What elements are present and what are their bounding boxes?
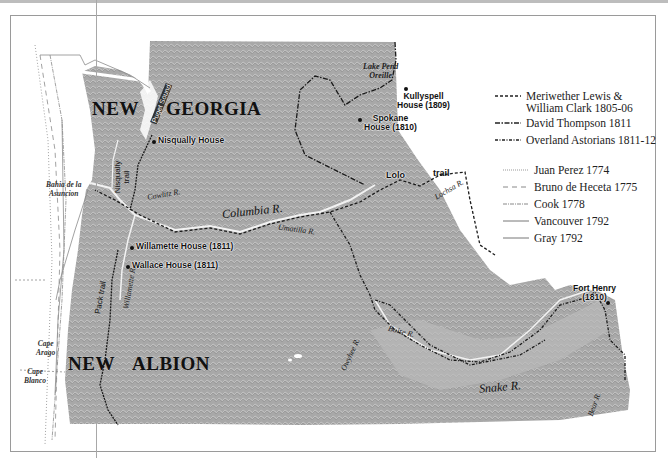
legend-label: William Clark 1805-06 — [526, 102, 633, 114]
arago-line1: Cape — [38, 339, 54, 348]
nisqually-trail-line2: trail — [122, 171, 131, 184]
long-dash-line-icon — [503, 185, 529, 189]
lake-line1: Lake Pend — [363, 62, 398, 71]
wallace-house-label: Wallace House (1811) — [132, 260, 218, 270]
legend-label: Overland Astorians 1811-12 — [526, 134, 656, 146]
dashed-line-icon — [495, 94, 521, 98]
cape-arago-label: Cape Arago — [36, 339, 55, 357]
lolo-trail-label: trail — [433, 168, 450, 178]
legend-label: Cook 1778 — [534, 198, 585, 210]
lake-line2: Oreille — [369, 71, 392, 80]
dash-dot-dot-line-icon — [495, 138, 521, 142]
legend-item-astorians: Overland Astorians 1811-12 — [495, 134, 660, 146]
graticule-line — [96, 0, 97, 458]
legend-item-cook: Cook 1778 — [495, 198, 660, 210]
region-new-georgia-2: GEORGIA — [166, 98, 261, 120]
nisqually-house-marker — [152, 140, 156, 144]
blanco-line1: Cape — [27, 367, 43, 376]
nisqually-trail-line1: Nisqually — [113, 161, 122, 193]
lake-pend-oreille-label: Lake Pend Oreille — [363, 62, 398, 80]
legend-label: David Thompson 1811 — [526, 117, 631, 129]
bahia-line2: Asuncion — [49, 189, 79, 198]
nisqually-house-label: Nisqually House — [158, 135, 224, 145]
legend-label: Juan Perez 1774 — [534, 164, 609, 176]
legend-item-gray: Gray 1792 — [495, 232, 660, 244]
dotted-line-icon — [503, 168, 529, 172]
kullyspell-line2: House (1809) — [397, 100, 450, 110]
fort-henry-label: Fort Henry (1810) — [573, 284, 616, 302]
legend-item-thompson: David Thompson 1811 — [495, 117, 660, 129]
region-new-albion-2: ALBION — [132, 353, 210, 375]
fort-henry-line2: (1810) — [582, 292, 607, 302]
legend-label: Vancouver 1792 — [534, 215, 609, 227]
bahia-asuncion-label: Bahia de la Asuncion — [46, 180, 81, 198]
spokane-house-label: Spokane House (1810) — [364, 114, 417, 132]
legend-label: Meriwether Lewis & — [526, 90, 622, 102]
solid-line-icon — [503, 236, 529, 240]
legend-label: Gray 1792 — [534, 232, 583, 244]
region-new-albion-1: NEW — [68, 353, 115, 375]
legend-item-heceta: Bruno de Heceta 1775 — [495, 181, 660, 193]
solid-line-icon — [503, 219, 529, 223]
region-new-georgia-1: NEW — [92, 98, 139, 120]
willamette-house-label: Willamette House (1811) — [136, 241, 233, 251]
lake — [294, 354, 302, 358]
spokane-house-marker — [358, 118, 362, 122]
map-legend: Meriwether Lewis &William Clark 1805-06 … — [495, 90, 660, 244]
legend-item-perez: Juan Perez 1774 — [495, 164, 660, 176]
dot-dash-line-icon — [503, 202, 529, 206]
legend-item-lewis-clark: Meriwether Lewis &William Clark 1805-06 — [495, 90, 660, 114]
cape-blanco-label: Cape Blanco — [24, 367, 46, 385]
nisqually-trail-label: Nisqually trail — [113, 161, 131, 193]
dash-dot-line-icon — [495, 121, 521, 125]
lake — [288, 359, 292, 362]
arago-line2: Arago — [36, 348, 55, 357]
willamette-house-marker — [130, 246, 134, 250]
legend-label: Bruno de Heceta 1775 — [534, 181, 637, 193]
spokane-line2: House (1810) — [364, 122, 417, 132]
kullyspell-house-label: Kullyspell House (1809) — [397, 92, 450, 110]
bahia-line1: Bahia de la — [46, 180, 81, 189]
legend-item-vancouver: Vancouver 1792 — [495, 215, 660, 227]
lolo-label: Lolo — [386, 170, 405, 180]
blanco-line2: Blanco — [24, 376, 46, 385]
